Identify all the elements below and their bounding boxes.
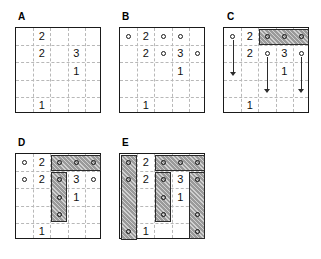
grid-number: 1 bbox=[33, 226, 50, 237]
puzzle-grid-a: 22311 bbox=[15, 27, 101, 113]
circle-marker bbox=[230, 34, 235, 39]
grid-number: 3 bbox=[172, 48, 189, 59]
circle-marker bbox=[299, 34, 304, 39]
circle-marker bbox=[161, 51, 166, 56]
puzzle-grid-e: 22311 bbox=[119, 153, 205, 239]
grid-number: 1 bbox=[276, 66, 293, 77]
grid-number: 2 bbox=[241, 31, 258, 42]
puzzle-grid-c: 22311 bbox=[223, 27, 309, 113]
circle-marker bbox=[57, 195, 62, 200]
circle-marker bbox=[161, 34, 166, 39]
grid-number: 2 bbox=[33, 157, 50, 168]
puzzle-grid-d: 22311 bbox=[15, 153, 101, 239]
grid-line-horizontal bbox=[224, 45, 308, 46]
grid-inner-b: 22311 bbox=[120, 28, 204, 112]
grid-line-horizontal bbox=[16, 97, 100, 98]
grid-inner-e: 22311 bbox=[120, 154, 204, 238]
grid-number: 2 bbox=[137, 174, 154, 185]
grid-number: 2 bbox=[137, 48, 154, 59]
grid-inner-a: 22311 bbox=[16, 28, 100, 112]
grid-line-horizontal bbox=[120, 97, 204, 98]
grid-line-horizontal bbox=[120, 80, 204, 81]
circle-marker bbox=[126, 229, 131, 234]
panel-label-e: E bbox=[122, 138, 129, 148]
grid-number: 1 bbox=[172, 66, 189, 77]
grid-line-horizontal bbox=[16, 62, 100, 63]
circle-marker bbox=[265, 34, 270, 39]
grid-line-horizontal bbox=[224, 80, 308, 81]
circle-marker bbox=[195, 51, 200, 56]
grid-line-vertical bbox=[189, 28, 190, 112]
circle-marker bbox=[195, 229, 200, 234]
grid-line-horizontal bbox=[120, 45, 204, 46]
puzzle-grid-b: 22311 bbox=[119, 27, 205, 113]
grid-inner-d: 22311 bbox=[16, 154, 100, 238]
circle-marker bbox=[57, 160, 62, 165]
arrow-head-icon bbox=[264, 89, 270, 93]
circle-marker bbox=[161, 212, 166, 217]
circle-marker bbox=[161, 160, 166, 165]
circle-marker bbox=[74, 160, 79, 165]
grid-number: 1 bbox=[137, 100, 154, 111]
circle-marker bbox=[265, 51, 270, 56]
grid-line-horizontal bbox=[16, 80, 100, 81]
circle-marker bbox=[22, 160, 27, 165]
grid-number: 3 bbox=[172, 174, 189, 185]
grid-number: 2 bbox=[33, 31, 50, 42]
arrow-head-icon bbox=[230, 72, 236, 76]
panel-label-c: C bbox=[227, 12, 234, 22]
circle-marker bbox=[178, 160, 183, 165]
circle-marker bbox=[91, 160, 96, 165]
grid-inner-c: 22311 bbox=[224, 28, 308, 112]
grid-number: 2 bbox=[241, 48, 258, 59]
circle-marker bbox=[161, 195, 166, 200]
circle-marker bbox=[195, 212, 200, 217]
arrow-head-icon bbox=[298, 89, 304, 93]
grid-number: 3 bbox=[276, 48, 293, 59]
grid-number: 2 bbox=[137, 157, 154, 168]
circle-marker bbox=[22, 177, 27, 182]
arrow-shaft bbox=[267, 57, 268, 90]
grid-number: 1 bbox=[33, 100, 50, 111]
grid-number: 1 bbox=[137, 226, 154, 237]
circle-marker bbox=[57, 177, 62, 182]
grid-line-horizontal bbox=[120, 62, 204, 63]
arrow-shaft bbox=[233, 40, 234, 73]
grid-number: 2 bbox=[33, 48, 50, 59]
grid-number: 2 bbox=[33, 174, 50, 185]
grid-number: 1 bbox=[68, 66, 85, 77]
grid-line-horizontal bbox=[224, 62, 308, 63]
grid-number: 2 bbox=[137, 31, 154, 42]
grid-number: 1 bbox=[68, 192, 85, 203]
panel-label-d: D bbox=[18, 138, 25, 148]
circle-marker bbox=[299, 51, 304, 56]
grid-line-horizontal bbox=[16, 223, 100, 224]
circle-marker bbox=[178, 34, 183, 39]
grid-line-vertical bbox=[50, 28, 51, 112]
grid-line-horizontal bbox=[16, 45, 100, 46]
grid-number: 3 bbox=[68, 48, 85, 59]
grid-line-horizontal bbox=[224, 97, 308, 98]
panel-label-b: B bbox=[122, 12, 129, 22]
circle-marker bbox=[126, 34, 131, 39]
panel-label-a: A bbox=[18, 12, 25, 22]
circle-marker bbox=[57, 212, 62, 217]
circle-marker bbox=[91, 177, 96, 182]
grid-line-vertical bbox=[85, 28, 86, 112]
grid-line-vertical bbox=[154, 28, 155, 112]
grid-number: 3 bbox=[68, 174, 85, 185]
circle-marker bbox=[282, 34, 287, 39]
grid-number: 1 bbox=[241, 100, 258, 111]
circle-marker bbox=[195, 160, 200, 165]
circle-marker bbox=[161, 177, 166, 182]
grid-number: 1 bbox=[172, 192, 189, 203]
arrow-shaft bbox=[301, 57, 302, 90]
shaded-region bbox=[121, 155, 137, 240]
